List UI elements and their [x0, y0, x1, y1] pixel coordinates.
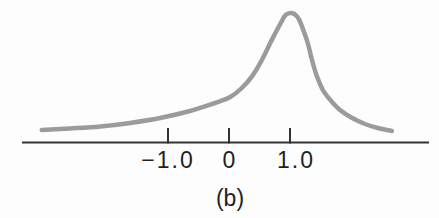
tick-label: 1.0: [277, 148, 315, 172]
distribution-curve: [42, 13, 392, 131]
figure: −1.0 0 1.0 (b): [0, 0, 439, 218]
axis-ticks: [168, 128, 290, 144]
tick-label: 0: [223, 148, 238, 172]
tick-label: −1.0: [141, 148, 194, 172]
figure-caption: (b): [216, 186, 244, 210]
